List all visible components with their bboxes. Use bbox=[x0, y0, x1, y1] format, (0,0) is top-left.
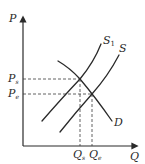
y-axis-label: P bbox=[8, 12, 17, 25]
pe-label: Pe bbox=[7, 87, 19, 100]
qs-label: Qs bbox=[73, 148, 85, 161]
d-label: D bbox=[113, 116, 123, 129]
s-label: S bbox=[119, 42, 127, 55]
x-axis-label: Q bbox=[130, 150, 139, 163]
ps-label: Ps bbox=[7, 72, 19, 85]
s1-label: S1 bbox=[103, 34, 115, 48]
supply-demand-diagram: P Q S1 S D Ps Pe Qs Qe bbox=[0, 0, 145, 164]
demand-curve-d bbox=[58, 61, 112, 121]
qe-label: Qe bbox=[89, 148, 102, 161]
